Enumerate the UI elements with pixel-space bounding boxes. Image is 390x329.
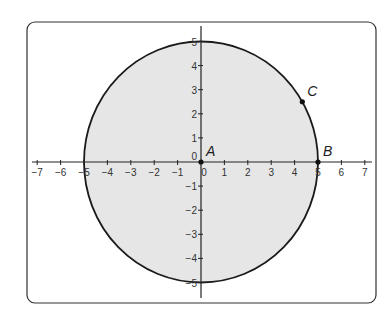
y-tick-label: 4 — [191, 61, 197, 72]
y-tick-label: −4 — [186, 253, 198, 264]
y-tick-label: 5 — [191, 37, 197, 48]
x-tick-label: 3 — [268, 167, 274, 178]
x-tick-label: 4 — [292, 167, 298, 178]
x-tick-label: −1 — [172, 167, 184, 178]
y-tick-label: 3 — [191, 85, 197, 96]
y-tick-label: 2 — [191, 109, 197, 120]
y-tick-label: −2 — [186, 205, 198, 216]
point-b — [315, 159, 320, 164]
point-label-a: A — [205, 143, 215, 159]
x-tick-label: −6 — [55, 167, 67, 178]
x-tick-label: −2 — [148, 167, 160, 178]
x-tick-label: 2 — [245, 167, 251, 178]
y-tick-label: −3 — [186, 229, 198, 240]
point-label-c: C — [307, 83, 318, 99]
x-tick-label: 1 — [222, 167, 228, 178]
point-c — [300, 99, 305, 104]
point-a — [198, 159, 203, 164]
x-tick-label: −4 — [102, 167, 114, 178]
x-tick-label: 6 — [339, 167, 345, 178]
y-tick-label: 0 — [191, 151, 197, 162]
point-label-b: B — [323, 143, 332, 159]
x-tick-label: −3 — [125, 167, 137, 178]
x-tick-label: −5 — [78, 167, 90, 178]
y-tick-label: 1 — [191, 133, 197, 144]
y-tick-label: −1 — [186, 181, 198, 192]
coordinate-plane: −7−6−5−4−3−2−101234567 543210−1−2−3−4−5 … — [0, 0, 390, 329]
x-tick-label: −7 — [31, 167, 43, 178]
x-tick-label: 0 — [201, 167, 207, 178]
x-tick-label: 5 — [315, 167, 321, 178]
y-tick-label: −5 — [186, 278, 198, 289]
x-tick-label: 7 — [362, 167, 368, 178]
